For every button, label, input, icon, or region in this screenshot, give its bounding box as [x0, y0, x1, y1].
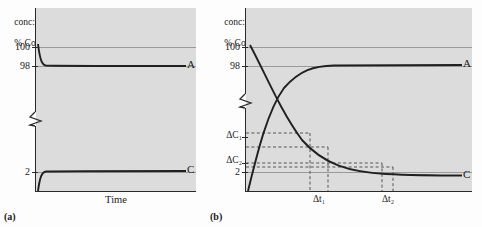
curve-label-c-panel-a: C [187, 163, 194, 175]
curve-c-panel-a [38, 171, 186, 191]
curve-label-a-panel-b: A [463, 57, 471, 69]
curve-a-panel-b [248, 65, 462, 191]
delta-t1-label: Δt₁ [294, 194, 344, 204]
curve-a-panel-a [38, 44, 186, 66]
x-axis-title-a: Time [76, 194, 156, 205]
caption-b: (b) [210, 211, 222, 222]
panel-b: conc: % Co 100 98 2 ΔC₁ ΔC₂ [210, 0, 482, 227]
figure-kinetics-concentration-vs-time: conc: % Co 100 98 2 A C Time ( [0, 0, 482, 227]
curves-svg-b [210, 0, 482, 227]
caption-a: (a) [4, 211, 16, 222]
curves-svg-a [0, 0, 210, 227]
curve-label-c-panel-b: C [463, 168, 470, 180]
delta-t2-label: Δt₂ [363, 194, 413, 204]
panel-a: conc: % Co 100 98 2 A C Time ( [0, 0, 210, 227]
curve-label-a-panel-a: A [187, 58, 195, 70]
